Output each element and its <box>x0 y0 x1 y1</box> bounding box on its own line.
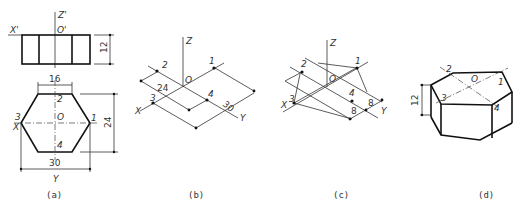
axis-label-x: X <box>280 100 288 110</box>
axis-label-x: X <box>12 122 20 132</box>
dim-8-lower: 8 <box>351 106 357 116</box>
panel-a: X' Z' O' 12 16 30 <box>8 10 118 200</box>
axis-label-y: Y <box>381 106 388 116</box>
axis-label-x-prime: X' <box>9 25 19 35</box>
point-1: 1 <box>355 56 361 66</box>
axis-label-z: Z <box>329 38 337 48</box>
point-3: 3 <box>15 112 21 122</box>
axis-label-y: Y <box>53 174 60 184</box>
point-2: 2 <box>162 60 168 70</box>
axis-label-y: Y <box>240 113 247 123</box>
axis-label-z-prime: Z' <box>57 10 67 20</box>
point-4: 4 <box>208 89 214 99</box>
hexagonal-prism-isometric-figure: X' Z' O' 12 16 30 <box>0 0 523 212</box>
origin-o: O <box>329 74 336 84</box>
dim-width-30: 30 <box>49 158 61 168</box>
origin-label-o-prime: O' <box>57 25 67 35</box>
point-2: 2 <box>301 59 307 69</box>
caption-b: (b) <box>188 190 204 200</box>
dim-24: 24 <box>157 83 169 93</box>
origin-o: O <box>57 112 64 122</box>
point-1: 1 <box>91 113 97 123</box>
point-3: 3 <box>441 93 447 103</box>
point-2: 2 <box>446 64 452 74</box>
axis-label-z: Z <box>185 36 193 46</box>
dim-top-edge-16: 16 <box>49 74 61 84</box>
dim-8-upper: 8 <box>368 98 374 108</box>
caption-a: (a) <box>46 190 62 200</box>
point-4: 4 <box>57 140 63 150</box>
point-1: 1 <box>498 77 504 87</box>
caption-c: (c) <box>333 190 349 200</box>
caption-d: (d) <box>478 190 494 200</box>
origin-o: O <box>185 75 192 85</box>
panel-c: Z 2 1 O 4 3 X 8 8 Y (c) <box>280 38 388 200</box>
point-4: 4 <box>349 88 355 98</box>
point-2: 2 <box>57 94 63 104</box>
point-3: 3 <box>289 94 295 104</box>
top-view: 16 30 24 2 O 1 3 X 4 Y <box>12 74 118 184</box>
dim-depth-24: 24 <box>103 116 113 128</box>
panel-d: 12 2 O 1 3 4 (d) <box>410 64 512 200</box>
dim-height-12: 12 <box>410 95 420 106</box>
point-4: 4 <box>494 103 500 113</box>
point-3: 3 <box>150 93 156 103</box>
axis-label-x: X <box>134 106 142 116</box>
front-view: X' Z' O' 12 <box>8 10 114 68</box>
dim-height-12: 12 <box>99 42 109 53</box>
point-1: 1 <box>209 56 215 66</box>
panel-b: Z 2 1 O 24 3 4 30 X Y (b) <box>134 36 255 200</box>
origin-o: O <box>471 74 478 84</box>
